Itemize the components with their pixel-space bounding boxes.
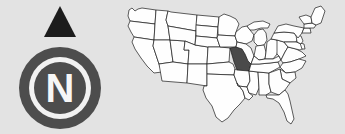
state-nebraska xyxy=(195,36,220,47)
united-states-map xyxy=(118,2,343,132)
state-connecticut-rhode-island xyxy=(302,28,311,33)
state-kansas xyxy=(207,47,230,64)
state-vermont-new-hampshire xyxy=(299,15,312,24)
state-florida xyxy=(266,90,294,124)
state-maine xyxy=(311,6,325,25)
state-iowa xyxy=(217,35,237,47)
state-oklahoma xyxy=(207,62,235,75)
state-michigan-lower xyxy=(254,29,267,46)
state-shapes xyxy=(128,6,325,124)
compass-cardinal-letter: N xyxy=(46,66,75,110)
state-michigan-upper xyxy=(247,21,270,30)
compass-rose: N xyxy=(0,0,120,134)
state-oregon xyxy=(128,21,155,40)
locator-map-figure: N xyxy=(0,0,345,134)
compass-needle-icon xyxy=(44,6,76,37)
state-arizona xyxy=(159,62,188,83)
state-new-mexico xyxy=(187,64,207,86)
